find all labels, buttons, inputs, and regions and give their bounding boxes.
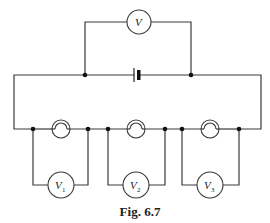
lamp-segment-2: V 2	[106, 120, 168, 198]
junction-node	[86, 127, 91, 132]
voltmeter-v2-subscript: 2	[137, 186, 141, 194]
lamp-icon	[52, 120, 70, 138]
lamp-segment-1: V 1	[31, 120, 91, 198]
junction-node	[237, 127, 242, 132]
voltmeter-v1-subscript: 1	[62, 186, 66, 194]
voltmeter-v3-subscript: 3	[211, 186, 215, 194]
main-voltmeter-branch: V	[85, 10, 191, 75]
junction-node	[31, 127, 36, 132]
lamp-icon	[127, 120, 145, 138]
battery-cell	[134, 68, 141, 82]
junction-node	[163, 127, 168, 132]
junction-node	[180, 127, 185, 132]
lamp-segment-3: V 3	[180, 120, 242, 198]
junction-node	[106, 127, 111, 132]
junction-node	[189, 73, 194, 78]
figure-caption: Fig. 6.7	[120, 204, 161, 219]
circuit-diagram: V V 1 V 2	[0, 0, 270, 223]
junction-node	[83, 73, 88, 78]
lamp-icon	[201, 120, 219, 138]
